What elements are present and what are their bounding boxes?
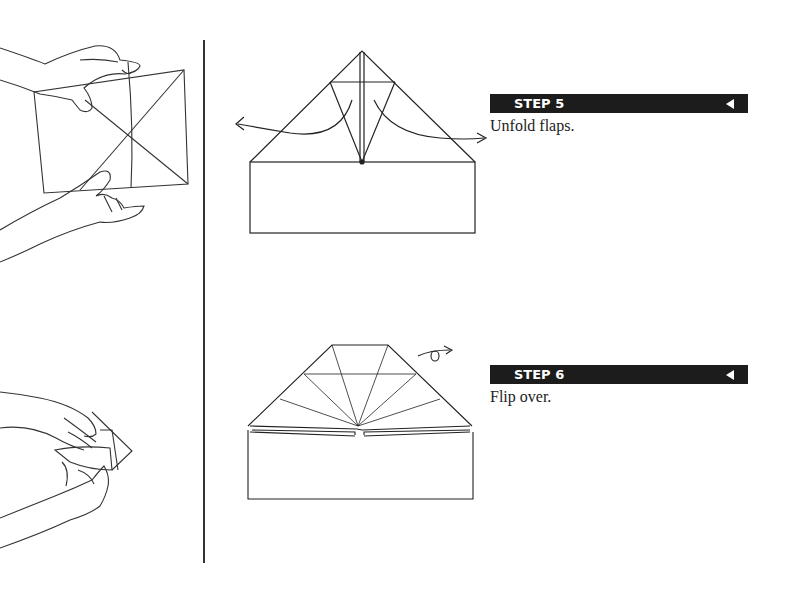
step-5-instruction: Unfold flaps. <box>490 117 574 135</box>
step-5-header: STEP 5 <box>490 94 748 113</box>
diagram-step6 <box>0 0 791 590</box>
step-6-instruction: Flip over. <box>490 388 551 406</box>
step-6-header: STEP 6 <box>490 365 748 384</box>
left-triangle-icon <box>726 370 734 380</box>
left-triangle-icon <box>726 99 734 109</box>
step-6-label: STEP 6 <box>514 367 564 382</box>
step-5-label: STEP 5 <box>514 96 564 111</box>
